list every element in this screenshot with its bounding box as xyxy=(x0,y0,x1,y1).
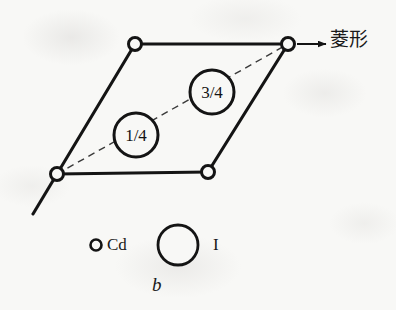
legend-label-i: I xyxy=(213,236,219,253)
dashed-diagonal xyxy=(57,44,288,174)
legend-label-cd: Cd xyxy=(107,236,127,253)
figure-container: 1/4 3/4 菱形 Cd I b xyxy=(0,0,396,310)
atom-i-quarter: 1/4 xyxy=(114,113,158,157)
figure-caption: b xyxy=(152,275,162,294)
atom-height-label: 1/4 xyxy=(125,126,147,145)
cell-edge-bottom xyxy=(57,172,208,174)
cd-atom-top-right xyxy=(282,38,295,51)
legend-i-circle-icon xyxy=(158,225,198,265)
atom-height-label: 3/4 xyxy=(201,83,223,102)
cd-atom-bottom-left xyxy=(51,168,64,181)
axis-direction-label: 菱形 xyxy=(330,30,368,49)
cd-atom-top-left xyxy=(129,38,142,51)
legend-cd-circle-icon xyxy=(91,240,102,251)
cd-atom-bottom-right xyxy=(202,166,215,179)
atom-i-three-quarter: 3/4 xyxy=(190,70,234,114)
